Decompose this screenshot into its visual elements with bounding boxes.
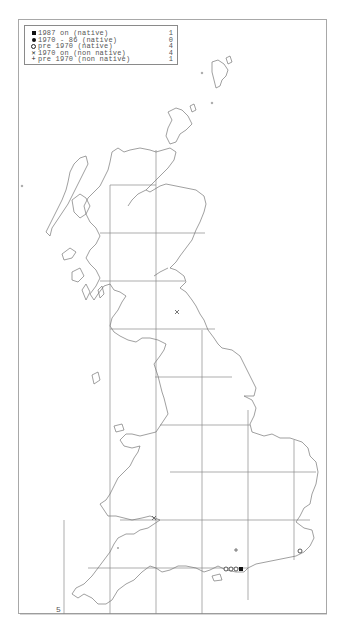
plus-icon: + [30,56,37,63]
open-circle-marker-icon [298,549,302,553]
filled-circle-icon [30,38,37,42]
grid-lines [20,150,327,614]
legend: 1987 on (native) 1 1970 - 86 (native) 0 … [24,25,178,65]
open-circle-marker-icon [229,567,233,571]
cross-x-marker-icon [175,310,179,314]
open-circle-marker-icon [234,567,238,571]
filled-square-icon [30,31,37,35]
corner-label: 5 [56,605,61,614]
open-circle-marker-icon [224,567,228,571]
distribution-map: 5 [0,0,344,633]
plus-marker-icon [234,548,238,552]
map-frame [19,20,327,614]
filled-square-marker-icon [239,567,243,571]
legend-label: pre 1970 (non native) [37,56,161,63]
coastline [21,56,318,604]
open-circle-icon [30,44,37,49]
legend-count: 1 [161,56,173,63]
legend-item-pre1970-non-native: + pre 1970 (non native) 1 [30,56,173,63]
